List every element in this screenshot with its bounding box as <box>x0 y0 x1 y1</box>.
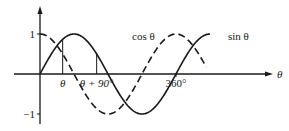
x-annotation-label: θ + 90° <box>80 77 114 89</box>
y-tick-label: 1 <box>30 28 36 40</box>
y-axis-arrow <box>38 6 43 14</box>
x-annotation-label: 360° <box>166 77 187 89</box>
axes <box>14 6 273 124</box>
sin-legend-label: sin θ <box>228 30 249 42</box>
x-axis-label: θ <box>277 68 283 80</box>
x-annotation-label: θ <box>60 77 66 89</box>
x-axis-arrow <box>265 72 273 77</box>
y-tick-label: −1 <box>23 108 35 120</box>
cos-legend-label: cos θ <box>132 30 155 42</box>
sin-cos-chart: θ 1−1θθ + 90°360°cos θsin θ <box>0 0 289 131</box>
